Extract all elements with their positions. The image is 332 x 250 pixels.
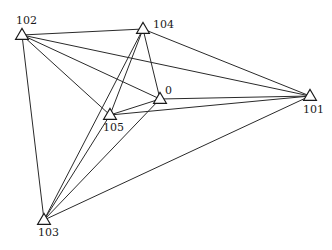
node-0: 0 <box>154 84 173 103</box>
edge-102-105 <box>22 35 110 115</box>
edge-102-104 <box>22 29 143 35</box>
node-103: 103 <box>38 213 60 239</box>
triangle-node-icon <box>137 22 150 33</box>
nodes-group: 1021040105101103 <box>16 14 325 239</box>
edge-104-103 <box>44 29 143 220</box>
edge-102-0 <box>22 35 160 99</box>
edge-0-103 <box>44 99 160 220</box>
node-label: 105 <box>103 121 124 134</box>
edge-104-105 <box>110 29 143 115</box>
node-101: 101 <box>303 89 324 116</box>
node-label: 102 <box>16 14 37 27</box>
node-label: 103 <box>38 226 59 239</box>
node-102: 102 <box>16 14 38 39</box>
edge-102-103 <box>22 35 44 220</box>
node-label: 101 <box>303 103 324 116</box>
edge-103-101 <box>44 96 310 220</box>
node-label: 104 <box>153 18 174 31</box>
edges-group <box>22 29 310 220</box>
network-diagram: 1021040105101103 <box>0 0 332 250</box>
node-label: 0 <box>165 84 172 97</box>
node-104: 104 <box>137 18 175 33</box>
node-105: 105 <box>103 108 124 134</box>
triangle-node-icon <box>16 28 29 39</box>
